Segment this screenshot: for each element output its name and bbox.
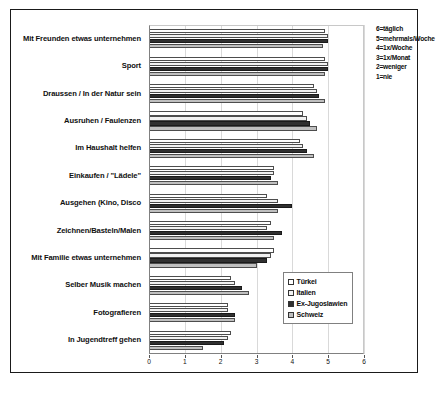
bar-group: [149, 162, 364, 189]
x-tick-label: 3: [250, 358, 264, 365]
bar-ex-jugoslawien: [149, 258, 267, 262]
category-label: Fotografieren: [11, 308, 141, 317]
bar-schweiz: [149, 291, 249, 295]
bar-schweiz: [149, 126, 317, 130]
bar-ex-jugoslawien: [149, 94, 319, 98]
legend-swatch-icon: [288, 290, 294, 296]
bar-t-rkei: [149, 276, 231, 280]
bar-t-rkei: [149, 139, 300, 143]
scale-legend-row: 3=1x/Monat: [376, 53, 438, 63]
bar-t-rkei: [149, 303, 228, 307]
bar-group: [149, 244, 364, 271]
chart-frame: 0123456 6=täglich5=mehrmals/Woche4=1x/Wo…: [10, 9, 418, 373]
bar-italien: [149, 308, 228, 312]
bar-italien: [149, 34, 328, 38]
bar-t-rkei: [149, 331, 231, 335]
bar-ex-jugoslawien: [149, 176, 271, 180]
legend-label: Schweiz: [297, 311, 324, 318]
bar-t-rkei: [149, 29, 325, 33]
bar-schweiz: [149, 346, 203, 350]
bar-schweiz: [149, 318, 235, 322]
category-label: Ausgehen (Kino, Disco: [11, 198, 141, 207]
bar-schweiz: [149, 44, 323, 48]
bar-schweiz: [149, 99, 325, 103]
category-label: Mit Freunden etwas unternehmen: [11, 34, 141, 43]
bar-ex-jugoslawien: [149, 286, 242, 290]
bar-italien: [149, 336, 228, 340]
legend-label: Ex-Jugoslawien: [297, 300, 348, 307]
bar-italien: [149, 116, 307, 120]
bar-schweiz: [149, 72, 325, 76]
bar-ex-jugoslawien: [149, 67, 328, 71]
scale-legend-row: 6=täglich: [376, 24, 438, 34]
bar-italien: [149, 226, 267, 230]
bar-italien: [149, 171, 274, 175]
bar-schweiz: [149, 236, 274, 240]
category-label: Im Haushalt helfen: [11, 143, 141, 152]
bar-italien: [149, 199, 278, 203]
bar-t-rkei: [149, 194, 267, 198]
x-tick-label: 1: [178, 358, 192, 365]
scale-legend-row: 4=1x/Woche: [376, 43, 438, 53]
x-tick-label: 6: [357, 358, 371, 365]
bar-ex-jugoslawien: [149, 149, 307, 153]
bar-t-rkei: [149, 221, 271, 225]
category-label: Einkaufen / "Lädele": [11, 171, 141, 180]
bar-italien: [149, 62, 328, 66]
legend-swatch-icon: [288, 312, 294, 318]
bar-group: [149, 52, 364, 79]
legend-label: Türkei: [297, 278, 317, 285]
bar-group: [149, 190, 364, 217]
scale-legend-row: 2=weniger: [376, 62, 438, 72]
legend-item-schweiz[interactable]: Schweiz: [288, 309, 347, 320]
bar-t-rkei: [149, 248, 274, 252]
bar-schweiz: [149, 209, 278, 213]
bar-t-rkei: [149, 57, 325, 61]
legend-item-italien[interactable]: Italien: [288, 287, 347, 298]
legend-item-t-rkei[interactable]: Türkei: [288, 276, 347, 287]
bar-italien: [149, 89, 317, 93]
bar-ex-jugoslawien: [149, 121, 310, 125]
bar-schweiz: [149, 263, 257, 267]
bar-italien: [149, 144, 303, 148]
bar-t-rkei: [149, 111, 303, 115]
bar-group: [149, 135, 364, 162]
bar-italien: [149, 281, 235, 285]
x-tick-label: 0: [142, 358, 156, 365]
bar-schweiz: [149, 154, 314, 158]
bar-ex-jugoslawien: [149, 341, 224, 345]
bar-t-rkei: [149, 84, 314, 88]
bar-ex-jugoslawien: [149, 231, 282, 235]
scale-legend: 6=täglich5=mehrmals/Woche4=1x/Woche3=1x/…: [376, 24, 438, 82]
category-label: Sport: [11, 61, 141, 70]
bar-ex-jugoslawien: [149, 39, 328, 43]
category-label: Zeichnen/Basteln/Malen: [11, 226, 141, 235]
x-tick-label: 2: [214, 358, 228, 365]
bar-group: [149, 107, 364, 134]
x-tick-label: 4: [285, 358, 299, 365]
bar-ex-jugoslawien: [149, 204, 292, 208]
gridline: [364, 25, 365, 354]
bar-schweiz: [149, 181, 278, 185]
category-label: Ausruhen / Faulenzen: [11, 116, 141, 125]
bar-italien: [149, 253, 271, 257]
bar-group: [149, 217, 364, 244]
category-label: Mit Familie etwas unternehmen: [11, 253, 141, 262]
legend-item-ex-jugoslawien[interactable]: Ex-Jugoslawien: [288, 298, 347, 309]
bar-ex-jugoslawien: [149, 313, 235, 317]
x-tick-label: 5: [321, 358, 335, 365]
scale-legend-row: 5=mehrmals/Woche: [376, 34, 438, 44]
bar-group: [149, 80, 364, 107]
category-label: Draussen / In der Natur sein: [11, 89, 141, 98]
bar-group: [149, 327, 364, 354]
category-label: In Jugendtreff gehen: [11, 335, 141, 344]
legend-label: Italien: [297, 289, 316, 296]
legend-swatch-icon: [288, 279, 294, 285]
x-axis: 0123456: [149, 355, 364, 371]
scale-legend-row: 1=nie: [376, 72, 438, 82]
category-label: Selber Musik machen: [11, 280, 141, 289]
legend-swatch-icon: [288, 301, 294, 307]
bar-t-rkei: [149, 166, 274, 170]
bar-group: [149, 25, 364, 52]
series-legend: TürkeiItalienEx-JugoslawienSchweiz: [283, 272, 353, 324]
